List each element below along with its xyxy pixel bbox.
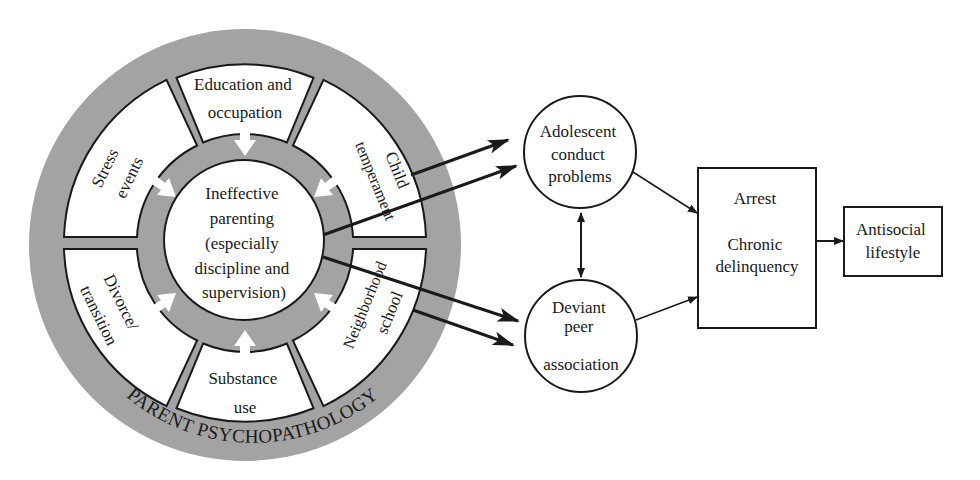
adolescent-conduct-problems-node: Adolescent conduct problems [524,96,636,208]
svg-text:Ineffective parenting: Ineffective parenting (especially discip… [194,184,293,302]
arrow-deviant-to-arrest [636,297,697,320]
arrow-adolescent-to-arrest [633,172,697,213]
ineffective-parenting-node: Ineffective parenting (especially discip… [164,160,324,320]
arrest-chronic-delinquency-node: Arrest Chronic delinquency [698,168,816,328]
deviant-peer-association-node: Deviant peer association [525,280,637,392]
diagram-canvas: PARENT PSYCHOPATHOLOGY Ineffective paren… [0,0,980,480]
antisocial-lifestyle-node: Antisocial lifestyle [844,207,942,276]
svg-text:Adolescent conduct: Adolescent conduct problems [540,122,621,186]
